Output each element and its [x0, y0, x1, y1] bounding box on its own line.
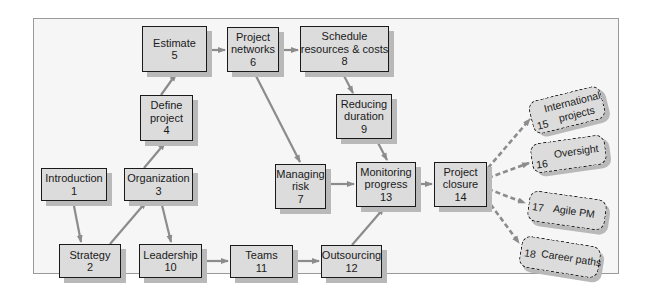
node-label-line2: networks: [231, 43, 275, 56]
node-project-closure[interactable]: Project closure 14: [434, 162, 487, 207]
node-label: Leadership: [143, 249, 197, 262]
node-label-line1: Define: [151, 99, 183, 112]
edge-2-3: [110, 202, 146, 244]
node-label: Strategy: [70, 249, 111, 262]
node-label: Organization: [127, 172, 189, 185]
node-number: 8: [341, 55, 347, 68]
edge-14-17: [488, 189, 525, 203]
node-label: Outsourcing: [322, 249, 381, 262]
node-label-line2: risk: [292, 180, 309, 193]
edge-12-13: [352, 208, 384, 245]
node-label: Introduction: [45, 172, 102, 185]
node-label-line2: progress: [365, 178, 408, 191]
node-number: 16: [535, 157, 548, 171]
node-number: 12: [345, 262, 357, 275]
node-schedule-resources-costs[interactable]: Schedule resources & costs 8: [300, 26, 389, 72]
node-number: 17: [531, 200, 544, 214]
node-number: 5: [171, 49, 177, 62]
edge-6-7: [254, 72, 300, 162]
node-label: Oversight: [553, 142, 599, 160]
node-managing-risk[interactable]: Managing risk 7: [275, 164, 326, 209]
node-number: 10: [164, 261, 176, 274]
edge-14-15: [488, 119, 530, 168]
edge-14-18: [486, 198, 519, 243]
node-label: Career paths: [540, 247, 602, 268]
node-number: 18: [523, 246, 536, 260]
edge-1-2: [73, 201, 81, 242]
node-label: Agile PM: [552, 202, 595, 220]
node-label: Estimate: [153, 37, 196, 50]
node-number: 3: [155, 185, 161, 198]
node-number: 2: [87, 261, 93, 274]
node-label-line1: Reducing: [341, 98, 387, 111]
node-number: 7: [297, 193, 303, 206]
node-number: 4: [163, 124, 169, 137]
node-leadership[interactable]: Leadership 10: [139, 244, 202, 278]
node-number: 13: [380, 191, 392, 204]
node-number: 11: [256, 262, 267, 275]
node-number: 6: [250, 56, 256, 69]
node-label-line1: Project: [236, 31, 270, 44]
node-label-line1: Monitoring: [360, 166, 411, 179]
edge-4-5: [161, 74, 176, 95]
node-number: 9: [361, 123, 367, 136]
edge-8-9: [342, 72, 353, 93]
node-outsourcing[interactable]: Outsourcing 12: [321, 245, 382, 278]
edge-3-4: [144, 143, 165, 168]
node-monitoring-progress[interactable]: Monitoring progress 13: [356, 162, 416, 207]
node-teams[interactable]: Teams 11: [230, 245, 293, 278]
node-label: Teams: [245, 249, 277, 262]
node-organization[interactable]: Organization 3: [124, 168, 193, 201]
node-label-line2: project: [150, 112, 183, 125]
node-project-networks[interactable]: Project networks 6: [227, 27, 279, 72]
node-number: 14: [454, 191, 466, 204]
node-estimate[interactable]: Estimate 5: [142, 26, 207, 72]
node-label-line1: Project: [443, 166, 477, 179]
node-number: 1: [71, 185, 77, 198]
node-label-line1: Managing: [276, 168, 324, 181]
node-strategy[interactable]: Strategy 2: [59, 244, 121, 278]
node-number: 15: [535, 117, 549, 131]
node-label-line1: Schedule: [322, 30, 368, 43]
node-define-project[interactable]: Define project 4: [140, 95, 193, 141]
node-label-line2: duration: [344, 110, 384, 123]
node-label-line2: closure: [443, 178, 478, 191]
edge-9-13: [376, 139, 387, 160]
node-reducing-duration[interactable]: Reducing duration 9: [336, 94, 392, 139]
node-introduction[interactable]: Introduction 1: [41, 168, 107, 201]
edge-14-16: [488, 163, 529, 178]
edge-3-10: [161, 201, 171, 242]
node-label-line2: resources & costs: [301, 43, 388, 56]
